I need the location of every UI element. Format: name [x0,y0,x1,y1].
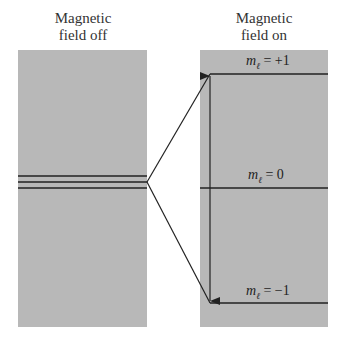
label-value: = +1 [263,53,289,68]
label-subscript: ℓ [256,291,260,301]
label-subscript: ℓ [256,61,260,71]
diagram-lines [0,0,343,345]
label-symbol: m [246,53,256,68]
label-value: = 0 [265,167,283,182]
label-subscript: ℓ [258,175,262,185]
label-ml-0: mℓ = 0 [248,167,284,185]
label-ml-plus1: mℓ = +1 [246,53,290,71]
fan-line-top [147,74,210,182]
fan-line-bottom [147,182,210,303]
label-ml-minus1: mℓ = −1 [246,283,290,301]
label-symbol: m [248,167,258,182]
label-value: = −1 [263,283,289,298]
label-symbol: m [246,283,256,298]
